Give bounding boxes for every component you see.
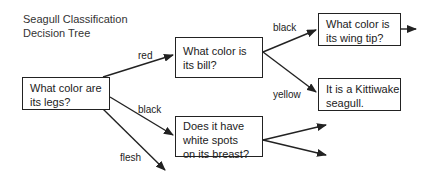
node-kittiwake: It is a Kittiwake seagull. [318,78,401,111]
edge-label-yellow: yellow [273,89,301,100]
edge-black-legs [110,97,173,135]
edge-label-red: red [138,50,152,61]
edge-label-black-legs: black [138,104,161,115]
edge-label-flesh: flesh [120,152,141,163]
diagram-title: Seagull Classification Decision Tree [23,12,128,40]
edge-spots-out-2 [263,140,326,155]
node-spots: Does it have white spots on its breast? [175,116,263,157]
edge-yellow [263,52,316,92]
edge-spots-out-1 [263,125,326,140]
node-legs: What color are its legs? [22,77,110,110]
node-bill: What color is its bill? [175,37,263,78]
edge-label-black-bill: black [273,22,296,33]
edge-black-bill [263,30,316,52]
node-wingtip: What color is its wing tip? [318,13,401,46]
